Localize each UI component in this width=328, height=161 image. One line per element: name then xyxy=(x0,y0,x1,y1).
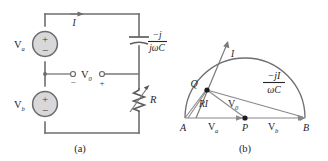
output-voltage-label-sub: 0 xyxy=(89,75,93,82)
capacitor-impedance-numerator: −j xyxy=(152,30,161,40)
voltage-source-a-plus: + xyxy=(42,33,48,45)
voltage-source-a: + − xyxy=(33,32,58,57)
resistor-label: R xyxy=(149,94,157,105)
voltage-source-b-label: V b xyxy=(14,99,26,112)
capacitor-impedance-label: −j jωC xyxy=(147,30,167,53)
phasor-capacitor-drop-denominator: ωC xyxy=(267,84,281,95)
capacitor-plate-bottom xyxy=(130,42,148,44)
current-label-I: I xyxy=(72,18,77,28)
phasor-va-label-sub: a xyxy=(215,127,218,134)
phasor-current-label: I xyxy=(230,49,235,59)
capacitor-impedance-denominator: jωC xyxy=(147,43,165,53)
output-voltage-label: V 0 xyxy=(81,69,93,82)
figure-svg: I + − V a + − V b − + V 0 xyxy=(0,0,328,161)
voltage-source-b: + − xyxy=(33,92,58,117)
panel-b-caption: (b) xyxy=(239,143,252,155)
resistor-arrow-head xyxy=(144,85,150,90)
phasor-capacitor-drop-label: −jI ωC xyxy=(263,70,285,95)
circuit-schematic-group: I + − V a + − V b − + V 0 xyxy=(14,12,167,155)
phasor-diagram-group: I Q A P B RI V 0 V a V b −jI ωC xyxy=(179,41,309,155)
phasor-vb-label: V b xyxy=(268,121,279,134)
voltage-source-b-plus: + xyxy=(42,93,48,105)
capacitor-symbol xyxy=(129,37,149,44)
phasor-ri-label: RI xyxy=(198,99,209,109)
phasor-point-a-label: A xyxy=(179,122,187,133)
figure-container: I + − V a + − V b − + V 0 xyxy=(0,0,328,161)
phasor-capacitor-drop-line xyxy=(207,90,303,117)
phasor-current-arrowhead xyxy=(223,41,229,48)
phasor-capacitor-drop-numerator: −jI xyxy=(268,70,282,81)
resistor-arrow-shaft xyxy=(130,88,148,113)
phasor-semicircle-arc xyxy=(185,58,305,118)
resistor-symbol xyxy=(130,85,150,112)
phasor-va-label: V a xyxy=(208,121,218,134)
node-left-rail xyxy=(43,72,47,76)
current-arrow-top xyxy=(70,12,84,17)
voltage-source-a-label: V a xyxy=(14,39,25,52)
current-arrow-head xyxy=(78,12,85,17)
voltage-source-a-minus: − xyxy=(42,44,48,56)
output-terminal-right-sign: + xyxy=(99,78,104,88)
output-terminal-right xyxy=(100,72,105,77)
output-terminal-left xyxy=(71,72,76,77)
voltage-source-b-label-sub: b xyxy=(22,105,26,112)
phasor-point-b-label: B xyxy=(303,122,309,133)
phasor-v0-label-sub: 0 xyxy=(235,104,239,111)
panel-a-caption: (a) xyxy=(74,143,86,155)
voltage-source-a-label-sub: a xyxy=(22,45,25,52)
output-terminal-left-sign: − xyxy=(70,77,75,87)
phasor-point-p-dot xyxy=(242,115,247,120)
phasor-point-p-label: P xyxy=(241,122,248,133)
phasor-v0-line xyxy=(207,90,244,117)
phasor-vb-label-sub: b xyxy=(275,127,279,134)
phasor-point-q-label: Q xyxy=(190,78,198,89)
voltage-source-b-minus: − xyxy=(42,104,48,116)
phasor-point-q-dot xyxy=(204,87,209,92)
